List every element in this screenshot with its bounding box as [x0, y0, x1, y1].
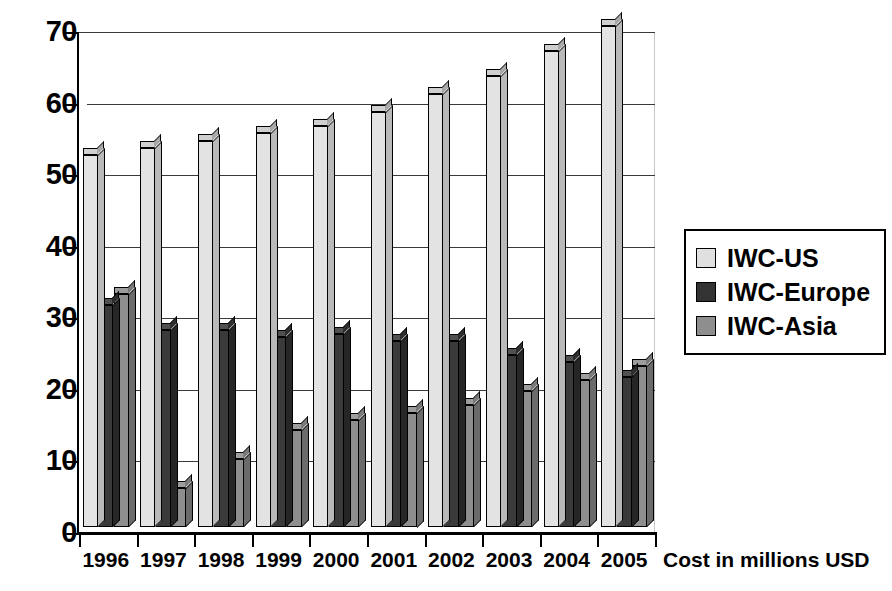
bar-side-face	[532, 384, 539, 527]
bar-side-face	[474, 398, 481, 527]
plot-right-border	[654, 32, 655, 533]
bar-side-face	[401, 334, 408, 527]
bar-side-face	[417, 406, 424, 528]
bar-side-face	[171, 323, 178, 527]
bar-iwc-us-1999	[256, 133, 271, 527]
bar-side-face	[244, 452, 251, 527]
x-axis-tick-label: 1997	[133, 549, 193, 570]
bar-side-face	[616, 19, 623, 527]
bar-iwc-us-2001	[371, 112, 386, 527]
x-axis-tick-mark	[597, 535, 599, 547]
bar-side-face	[443, 87, 450, 527]
bar-top-face	[140, 141, 155, 148]
bar-front-face	[140, 148, 155, 527]
bar-side-face	[459, 334, 466, 527]
legend-item[interactable]: IWC-Asia	[696, 309, 870, 343]
bar-iwc-us-2004	[544, 51, 559, 527]
x-axis-tick-label: 1996	[76, 549, 136, 570]
bar-side-face	[229, 323, 236, 527]
bar-iwc-us-1998	[198, 141, 213, 527]
bar-iwc-us-1997	[140, 148, 155, 527]
legend-swatch-iwc-asia	[696, 316, 716, 336]
bar-side-face	[302, 423, 309, 527]
bar-side-face	[590, 373, 597, 527]
y-axis-tick-mark	[66, 104, 77, 106]
x-axis-tick-mark	[79, 535, 81, 547]
bar-side-face	[271, 126, 278, 527]
bar-top-face	[544, 44, 559, 51]
x-axis-tick-label: 2005	[594, 549, 654, 570]
bar-iwc-us-2005	[601, 26, 616, 527]
bar-side-face	[386, 105, 393, 527]
bar-front-face	[486, 76, 501, 527]
legend-swatch-iwc-europe	[696, 282, 716, 302]
bar-iwc-us-2000	[313, 126, 328, 527]
bar-side-face	[647, 359, 654, 527]
bar-top-face	[256, 126, 271, 133]
x-axis-title: Cost in millions USD	[663, 549, 870, 570]
x-axis-tick-mark	[425, 535, 427, 547]
x-axis-tick-label: 2001	[364, 549, 424, 570]
bar-side-face	[517, 348, 524, 527]
x-axis-tick-mark	[194, 535, 196, 547]
bar-side-face	[98, 148, 105, 527]
bar-chart: 706050403020100 199619971998199920002001…	[0, 0, 892, 591]
bar-side-face	[213, 134, 220, 527]
bar-side-face	[574, 355, 581, 527]
y-axis-tick-mark	[66, 247, 77, 249]
legend-label-iwc-europe: IWC-Europe	[727, 280, 870, 305]
bar-side-face	[501, 69, 508, 527]
bar-front-face	[313, 126, 328, 527]
bar-front-face	[198, 141, 213, 527]
bar-iwc-us-2003	[486, 76, 501, 527]
x-axis-tick-mark	[137, 535, 139, 547]
bar-side-face	[286, 330, 293, 527]
x-axis-tick-mark	[655, 535, 657, 547]
x-axis-tick-mark	[252, 535, 254, 547]
y-axis-tick-mark	[66, 533, 77, 535]
x-axis-tick-label: 2000	[306, 549, 366, 570]
legend: IWC-US IWC-Europe IWC-Asia	[684, 229, 886, 355]
bar-front-face	[371, 112, 386, 527]
x-axis-tick-label: 2002	[421, 549, 481, 570]
gridline	[79, 32, 655, 33]
x-axis-tick-label: 2004	[537, 549, 597, 570]
bar-top-face	[486, 69, 501, 76]
legend-item[interactable]: IWC-Europe	[696, 275, 870, 309]
y-axis-tick-mark	[66, 461, 77, 463]
y-axis-tick-mark	[66, 175, 77, 177]
legend-swatch-iwc-us	[696, 248, 716, 268]
legend-label-iwc-us: IWC-US	[727, 246, 819, 271]
bar-side-face	[113, 298, 120, 527]
x-axis-tick-label: 1998	[191, 549, 251, 570]
x-axis-tick-label: 1999	[249, 549, 309, 570]
bar-side-face	[155, 141, 162, 527]
bar-top-face	[371, 105, 386, 112]
plot-area	[79, 32, 655, 533]
x-axis-tick-mark	[367, 535, 369, 547]
bar-top-face	[313, 119, 328, 126]
bar-front-face	[83, 155, 98, 527]
bar-side-face	[359, 413, 366, 527]
x-axis-tick-mark	[540, 535, 542, 547]
y-axis-tick-mark	[66, 318, 77, 320]
bar-side-face	[328, 119, 335, 527]
y-axis-tick-mark	[66, 32, 77, 34]
bar-front-face	[256, 133, 271, 527]
bar-front-face	[601, 26, 616, 527]
bar-top-face	[83, 148, 98, 155]
bar-side-face	[632, 370, 639, 527]
bar-front-face	[428, 94, 443, 527]
bar-side-face	[559, 44, 566, 527]
y-axis-tick-mark	[66, 390, 77, 392]
bar-side-face	[344, 327, 351, 527]
x-axis-tick-mark	[309, 535, 311, 547]
bar-side-face	[129, 287, 136, 527]
legend-item[interactable]: IWC-US	[696, 241, 870, 275]
bar-side-face	[186, 481, 193, 527]
bar-iwc-us-2002	[428, 94, 443, 527]
legend-label-iwc-asia: IWC-Asia	[727, 314, 837, 339]
bar-top-face	[198, 134, 213, 141]
x-axis-tick-mark	[482, 535, 484, 547]
bar-top-face	[428, 87, 443, 94]
